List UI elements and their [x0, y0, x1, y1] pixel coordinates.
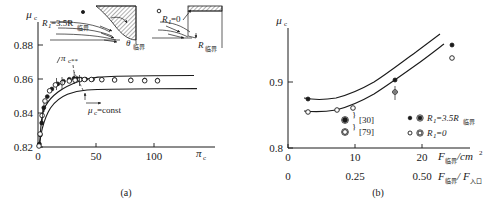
panel-b-label: (b): [372, 187, 384, 199]
panel-a-annotation-pi-critical: π c**: [57, 53, 84, 92]
panel-a-y-axis-sub: c: [34, 14, 37, 22]
inset-right-schematic: R 1 =0 R 临界: [152, 6, 222, 53]
inset-left-R-label: R: [41, 18, 48, 28]
panel-b-legend1-cjk: 临界: [463, 118, 475, 126]
panel-a-xtick-0: 0: [35, 150, 41, 162]
panel-b-series-legend: R 1 =3.5R 临界 R 1 =0: [408, 113, 475, 140]
panel-a-annotation-mu-const: μ c =const: [85, 93, 122, 117]
panel-b-legend2-eq: =0: [436, 128, 447, 138]
panel-b-y-axis-sub: c: [284, 20, 287, 28]
panel-b-xtick-upper-2: 20: [417, 151, 429, 163]
panel-b-xtitle2-num-cjk: 临界: [445, 177, 457, 185]
panel-a-label: (a): [120, 187, 131, 199]
panel-a-ytick-3: 0.88: [14, 39, 34, 51]
inset-right-eq: =0: [171, 14, 181, 24]
panel-a-xtick-1: 50: [91, 150, 103, 162]
panel-b-ref-79: [79]: [359, 127, 374, 137]
inset-right-R-label: R: [161, 14, 168, 24]
panel-a-ytick-0: 0.82: [14, 141, 33, 153]
inset-left-theta-cjk: 临界: [133, 43, 145, 51]
panel-b-svg: 0.8 0.9 μ c 0 10 20 0 0.25 0.50 F 临界 /cm…: [252, 0, 504, 209]
panel-b-xtitle2-den: F: [462, 170, 470, 182]
panel-b-ytick-1: 0.9: [269, 76, 283, 88]
panel-b-brace-79: }: [352, 122, 356, 132]
panel-b-xtitle2-den-cjk: 入口: [470, 177, 482, 185]
panel-a-x-axis-title: π: [196, 147, 202, 159]
panel-b-x-axis-lower-title: F 临界 / F 入口: [437, 170, 482, 185]
panel-b-xtick-upper-1: 10: [350, 151, 362, 163]
panel-b-curve-open: [304, 44, 444, 112]
panel-b-curve-filled: [304, 34, 440, 100]
panel-b-xtick-lower-0: 0: [285, 170, 291, 182]
panel-b-x-axis-upper-title: F 临界 /cm 2: [437, 149, 483, 165]
panel-b-xtitle2-num: F: [437, 170, 445, 182]
inset-right-R2: R: [197, 40, 204, 50]
panel-b-xtitle-F-cjk: 临界: [445, 157, 457, 165]
inset-right-R2-cjk: 临界: [205, 45, 217, 53]
panel-b-legend2-R: R: [426, 128, 433, 138]
panel-b-reference-legend: } [30] } [79]: [342, 110, 374, 137]
panel-b-brace-30: }: [352, 110, 356, 120]
legend-marker-open: [408, 131, 412, 135]
figure-container: 0.82 0.84 0.86 0.88 0 50 100 μ c π c: [0, 0, 504, 209]
inset-left-eq: =3.5R: [51, 18, 73, 28]
panel-b-xtick-lower-2: 0.50: [412, 170, 432, 182]
panel-b-ref-30: [30]: [359, 115, 374, 125]
inset-left-theta: θ: [126, 38, 131, 48]
panel-a-ytick-2: 0.86: [14, 73, 34, 85]
panel-b-xtick-lower-1: 0.25: [345, 170, 365, 182]
panel-b-xtick-upper-0: 0: [285, 151, 291, 163]
panel-b-points-open: [306, 56, 455, 115]
panel-a-y-axis-title: μ: [25, 8, 32, 20]
panel-b-points-filled: [306, 43, 454, 101]
panel-a-ytick-1: 0.84: [14, 107, 34, 119]
panel-b-xtitle-unit: /cm: [456, 150, 473, 162]
panel-b-y-axis-title: μ: [275, 14, 282, 26]
panel-a-svg: 0.82 0.84 0.86 0.88 0 50 100 μ c π c: [0, 0, 252, 209]
panel-a: 0.82 0.84 0.86 0.88 0 50 100 μ c π c: [0, 0, 252, 209]
inset-left-cjk-sub: 临界: [77, 24, 89, 32]
panel-a-annot-pi: π: [61, 53, 66, 63]
inset-left-schematic: R 1 =3.5R 临界 θ 临界: [41, 6, 145, 51]
panel-a-curve-open: [39, 89, 197, 147]
panel-b-xtitle2-slash: /: [456, 170, 461, 182]
panel-b-ytick-0: 0.8: [269, 142, 283, 154]
panel-b: 0.8 0.9 μ c 0 10 20 0 0.25 0.50 F 临界 /cm…: [252, 0, 504, 209]
panel-a-annot-const: =const: [97, 105, 122, 115]
panel-a-xtick-2: 100: [146, 150, 163, 162]
panel-b-xtitle-F: F: [437, 150, 445, 162]
panel-a-x-axis-sub: c: [203, 154, 206, 162]
panel-a-annot-pi-sub: c**: [68, 57, 79, 65]
legend-marker-filled: [408, 116, 412, 120]
panel-a-annot-mu: μ: [87, 105, 93, 115]
panel-b-legend1-R: R: [426, 113, 433, 123]
panel-b-legend1-eq: =3.5R: [436, 113, 459, 123]
panel-b-xtitle-exp: 2: [479, 149, 483, 157]
